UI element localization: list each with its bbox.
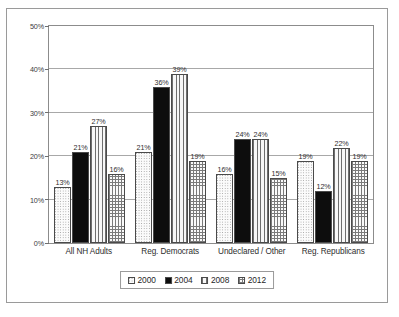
bar-2008-1[interactable]: 39% (171, 74, 188, 243)
bar-2012-2[interactable]: 15% (270, 178, 287, 243)
bar-2004-1[interactable]: 36% (153, 87, 170, 243)
bar-2008-3[interactable]: 22% (333, 148, 350, 243)
bar-value-label: 16% (218, 165, 232, 174)
legend-swatch-2012 (238, 277, 245, 284)
x-axis-labels: All NH AdultsReg. DemocratsUndeclared / … (48, 247, 374, 256)
legend-swatch-2004 (165, 277, 172, 284)
bar-value-label: 24% (254, 130, 268, 139)
bar-value-label: 16% (110, 165, 124, 174)
bar-2004-2[interactable]: 24% (234, 139, 251, 243)
bar-value-label: 13% (56, 178, 70, 187)
y-tick-label: 20% (30, 152, 44, 161)
bar-value-label: 21% (137, 143, 151, 152)
plot-area: 0%10%20%30%40%50% 13%21%27%16%21%36%39%1… (48, 25, 374, 244)
bar-2012-1[interactable]: 19% (189, 161, 206, 243)
bar-value-label: 22% (335, 139, 349, 148)
chart-legend: 2000200420082012 (120, 271, 274, 289)
x-tick-label-3: Reg. Republicans (293, 247, 375, 256)
legend-item-2008[interactable]: 2008 (202, 275, 230, 285)
y-tick-label: 50% (30, 22, 44, 31)
bar-group: 16%24%24%15% (211, 26, 292, 243)
bar-value-label: 21% (74, 143, 88, 152)
y-tick-label: 0% (34, 239, 44, 248)
bar-2000-0[interactable]: 13% (54, 187, 71, 243)
chart-figure: 0%10%20%30%40%50% 13%21%27%16%21%36%39%1… (6, 8, 388, 303)
bar-value-label: 19% (191, 152, 205, 161)
y-tick-label: 30% (30, 108, 44, 117)
bar-value-label: 36% (155, 78, 169, 87)
y-tick-label: 40% (30, 65, 44, 74)
legend-label-2012: 2012 (248, 275, 266, 285)
bar-value-label: 12% (317, 182, 331, 191)
legend-label-2008: 2008 (211, 275, 229, 285)
legend-item-2004[interactable]: 2004 (165, 275, 193, 285)
bar-2012-0[interactable]: 16% (108, 174, 125, 243)
x-tick-label-2: Undeclared / Other (211, 247, 293, 256)
x-tick-label-0: All NH Adults (48, 247, 130, 256)
bar-2004-3[interactable]: 12% (315, 191, 332, 243)
bar-2000-3[interactable]: 19% (297, 161, 314, 243)
legend-item-2000[interactable]: 2000 (128, 275, 156, 285)
bar-value-label: 27% (92, 117, 106, 126)
bar-group: 13%21%27%16% (49, 26, 130, 243)
y-tick-label: 10% (30, 195, 44, 204)
bar-2000-1[interactable]: 21% (135, 152, 152, 243)
bar-value-label: 39% (173, 65, 187, 74)
bar-2004-0[interactable]: 21% (72, 152, 89, 243)
legend-swatch-2008 (202, 277, 209, 284)
legend-label-2000: 2000 (138, 275, 156, 285)
bar-group: 19%12%22%19% (292, 26, 373, 243)
bar-value-label: 24% (236, 130, 250, 139)
bar-2000-2[interactable]: 16% (216, 174, 233, 243)
legend-label-2004: 2004 (174, 275, 192, 285)
bar-2012-3[interactable]: 19% (351, 161, 368, 243)
bar-2008-0[interactable]: 27% (90, 126, 107, 243)
bar-value-label: 19% (353, 152, 367, 161)
x-tick-label-1: Reg. Democrats (130, 247, 212, 256)
legend-item-2012[interactable]: 2012 (238, 275, 266, 285)
bar-groups: 13%21%27%16%21%36%39%19%16%24%24%15%19%1… (49, 26, 373, 243)
bar-2008-2[interactable]: 24% (252, 139, 269, 243)
bar-value-label: 15% (272, 169, 286, 178)
legend-swatch-2000 (128, 277, 135, 284)
bar-group: 21%36%39%19% (130, 26, 211, 243)
bar-value-label: 19% (299, 152, 313, 161)
